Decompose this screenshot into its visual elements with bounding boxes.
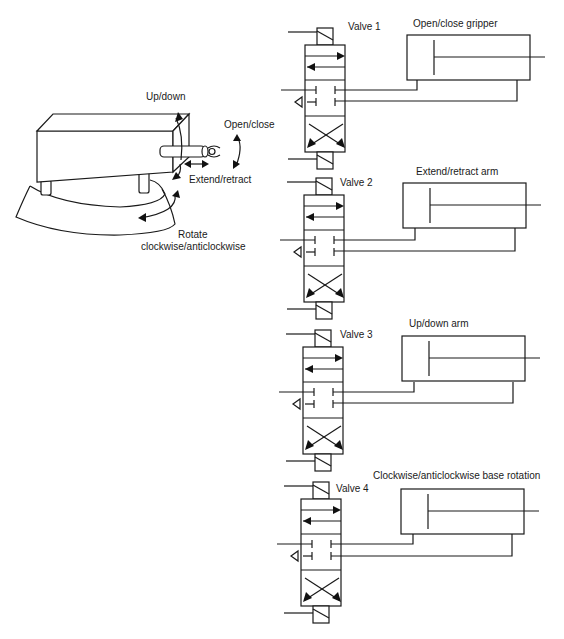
valve-1-label: Valve 1 — [348, 21, 381, 32]
robot-arm — [160, 146, 205, 157]
actuator-3-label: Up/down arm — [409, 318, 468, 329]
label-rotate: Rotate — [178, 229, 207, 240]
robot-body-front — [37, 131, 173, 182]
robot-body-top — [37, 114, 189, 131]
valve-1-symbol — [281, 28, 545, 169]
valve-3-symbol — [279, 330, 540, 471]
valve-2-symbol — [280, 178, 541, 319]
pneumatic-robot-diagram — [0, 0, 564, 639]
valve-4-symbol — [277, 482, 539, 623]
actuator-1-label: Open/close gripper — [413, 18, 498, 29]
valve-2-label: Valve 2 — [340, 177, 373, 188]
actuator-4-label: Clockwise/anticlockwise base rotation — [373, 470, 540, 481]
cylinder-1 — [407, 35, 545, 80]
actuator-2-label: Extend/retract arm — [416, 166, 498, 177]
valve-4-label: Valve 4 — [336, 483, 369, 494]
label-rotate-direction: clockwise/anticlockwise — [141, 241, 245, 252]
label-open-close: Open/close — [224, 119, 275, 130]
label-extend-retract: Extend/retract — [189, 174, 251, 185]
cylinder-3 — [402, 336, 540, 381]
cylinder-2 — [403, 183, 541, 228]
robot-base — [16, 186, 175, 235]
valve-3-label: Valve 3 — [340, 329, 373, 340]
cylinder-4 — [401, 489, 539, 534]
label-up-down: Up/down — [146, 91, 185, 102]
